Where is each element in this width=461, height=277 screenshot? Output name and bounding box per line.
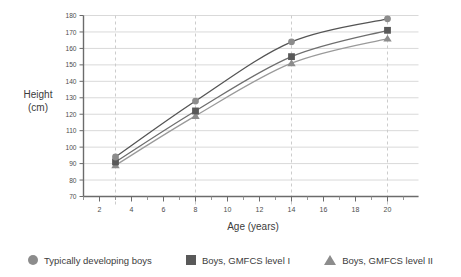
svg-text:8: 8 <box>194 206 198 213</box>
svg-text:70: 70 <box>69 193 77 200</box>
legend-label: Boys, GMFCS level I <box>202 255 290 266</box>
svg-text:90: 90 <box>69 160 77 167</box>
svg-text:180: 180 <box>65 12 76 19</box>
growth-chart: Height (cm) 7080901001101201301401501601… <box>0 0 461 277</box>
legend-label: Typically developing boys <box>44 255 152 266</box>
svg-text:120: 120 <box>65 111 76 118</box>
legend-item-gmfcs-level-2: Boys, GMFCS level II <box>324 255 433 266</box>
svg-text:2: 2 <box>98 206 102 213</box>
svg-text:110: 110 <box>66 127 77 134</box>
square-marker-icon <box>186 255 196 265</box>
legend-label: Boys, GMFCS level II <box>342 255 433 266</box>
svg-text:160: 160 <box>65 45 76 52</box>
svg-text:140: 140 <box>65 78 76 85</box>
plot-area: 7080901001101201301401501601701802468101… <box>0 0 461 277</box>
svg-text:170: 170 <box>65 29 76 36</box>
svg-text:20: 20 <box>384 206 392 213</box>
legend-item-typically-developing-boys: Typically developing boys <box>28 255 152 266</box>
svg-text:18: 18 <box>352 206 360 213</box>
svg-text:16: 16 <box>320 206 328 213</box>
chart-legend: Typically developing boys Boys, GMFCS le… <box>0 248 461 272</box>
triangle-marker-icon <box>324 255 336 265</box>
x-axis-title: Age (years) <box>83 221 423 232</box>
circle-marker-icon <box>28 255 38 265</box>
svg-text:10: 10 <box>224 206 232 213</box>
legend-item-gmfcs-level-1: Boys, GMFCS level I <box>186 255 290 266</box>
svg-text:100: 100 <box>65 144 76 151</box>
svg-text:6: 6 <box>162 206 166 213</box>
svg-text:14: 14 <box>288 206 296 213</box>
svg-text:12: 12 <box>256 206 264 213</box>
svg-text:80: 80 <box>69 177 77 184</box>
svg-text:150: 150 <box>65 61 76 68</box>
svg-text:130: 130 <box>65 94 76 101</box>
svg-text:4: 4 <box>130 206 134 213</box>
